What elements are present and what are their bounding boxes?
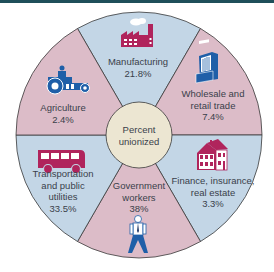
label-text: Agriculture	[40, 102, 85, 114]
label-manufacturing: Manufacturing 21.8%	[108, 56, 168, 79]
label-transportation: Transportation and public utilities 33.5…	[33, 168, 94, 214]
label-text: and public	[33, 180, 94, 192]
label-wholesale-retail: Wholesale and retail trade 7.4%	[182, 88, 245, 123]
label-text: retail trade	[182, 100, 245, 112]
center-label-line1: Percent	[119, 124, 160, 136]
label-text: Finance, insurance,	[172, 175, 255, 187]
label-text: Transportation	[33, 168, 94, 180]
label-value: 3.3%	[172, 198, 255, 210]
label-text: utilities	[33, 191, 94, 203]
label-text: Government	[113, 180, 165, 192]
label-agriculture: Agriculture 2.4%	[40, 102, 85, 125]
label-finance: Finance, insurance, real estate 3.3%	[172, 175, 255, 210]
label-text: workers	[113, 192, 165, 204]
label-text: Wholesale and	[182, 88, 245, 100]
label-value: 21.8%	[108, 68, 168, 80]
center-label-line2: unionized	[119, 136, 160, 148]
center-label: Percent unionized	[119, 124, 160, 148]
label-government: Government workers 38%	[113, 180, 165, 215]
label-value: 38%	[113, 203, 165, 215]
label-value: 33.5%	[33, 203, 94, 215]
label-text: real estate	[172, 187, 255, 199]
label-text: Manufacturing	[108, 56, 168, 68]
label-value: 7.4%	[182, 111, 245, 123]
label-value: 2.4%	[40, 114, 85, 126]
